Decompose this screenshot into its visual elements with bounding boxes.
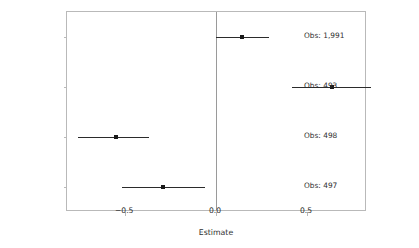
x-axis-tick-label: 0.5 [286,206,326,216]
y-axis-tick [64,87,67,88]
coefficient-plot-figure: Estimate Pct. Domestic ServantsObs: 497L… [0,0,419,248]
zero-reference-line [216,12,217,210]
x-axis-title: Estimate [66,228,366,237]
x-axis-tick-label: 0.0 [195,206,235,216]
x-axis-tick-label: −0.5 [104,206,144,216]
observation-count-label: Obs: 1,991 [304,31,344,40]
estimate-point-marker [114,135,118,139]
y-axis-tick [64,187,67,188]
estimate-point-marker [240,35,244,39]
observation-count-label: Obs: 493 [304,81,337,90]
observation-count-label: Obs: 497 [304,181,337,190]
y-axis-tick [64,137,67,138]
observation-count-label: Obs: 498 [304,131,337,140]
estimate-point-marker [161,185,165,189]
y-axis-tick [64,37,67,38]
